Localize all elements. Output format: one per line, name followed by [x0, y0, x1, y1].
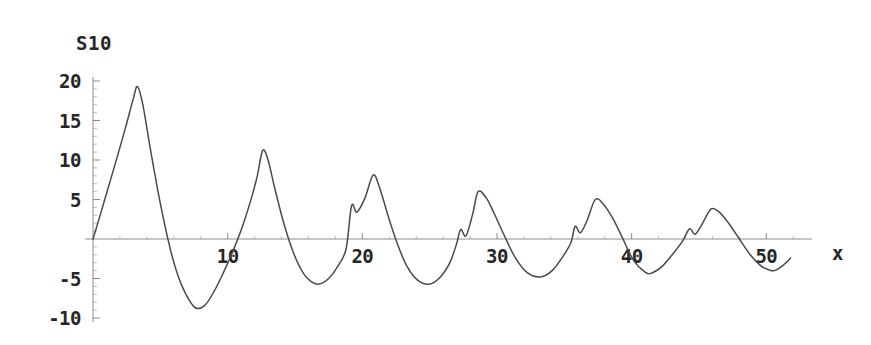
y-tick-label: -10 [48, 307, 81, 329]
x-axis-tick-labels: 1020304050 [217, 245, 778, 267]
data-series-line [93, 86, 791, 308]
x-axis-group: 1020304050 [85, 233, 812, 267]
y-tick-label: -5 [59, 268, 81, 290]
y-axis-tick-labels: 2015105-5-10 [48, 70, 81, 329]
y-axis-major-ticks [93, 81, 100, 318]
chart-plot: 1020304050 2015105-5-10 S10 x [0, 0, 871, 345]
x-axis-label: x [832, 242, 843, 264]
y-tick-label: 15 [59, 110, 81, 132]
chart-title: S10 [76, 32, 112, 54]
chart-canvas: 1020304050 2015105-5-10 S10 x [0, 0, 871, 345]
x-tick-label: 30 [486, 245, 508, 267]
x-tick-label: 20 [351, 245, 373, 267]
y-tick-label: 5 [70, 189, 81, 211]
y-axis-group: 2015105-5-10 [48, 70, 100, 329]
y-tick-label: 20 [59, 70, 81, 92]
y-tick-label: 10 [59, 149, 81, 171]
